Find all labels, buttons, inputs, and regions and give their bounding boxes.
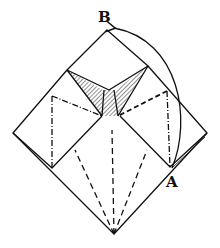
label-b: B [98,8,111,26]
label-a: A [165,173,178,191]
valley-folds [75,130,147,234]
origami-diagram: B A [0,0,220,248]
dashdot-right [167,91,170,167]
inner-flap-lines [13,116,207,168]
shade-lower-right [120,116,170,167]
